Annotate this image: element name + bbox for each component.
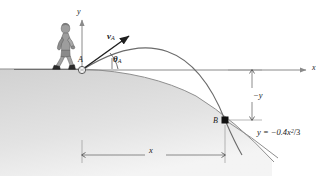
velocity-vector-label: vA [107, 32, 115, 41]
figure-canvas [0, 0, 325, 176]
vertical-drop-label: −y [253, 91, 263, 100]
projectile-motion-figure: y x A B vA θA −y x y = −0.4x2/3 [0, 0, 325, 176]
horizontal-range-label: x [149, 146, 153, 155]
point-a-label: A [78, 56, 83, 64]
theta-subscript: A [118, 58, 122, 64]
point-a-marker [78, 66, 85, 73]
point-b-marker [222, 117, 229, 124]
hill-equation-label: y = −0.4x2/3 [257, 128, 300, 137]
x-axis-label: x [312, 64, 316, 72]
equation-base: y = −0.4x [257, 127, 291, 137]
velocity-subscript: A [111, 35, 115, 41]
hill-region [0, 69, 274, 176]
walking-person [53, 23, 76, 69]
point-b-label: B [213, 117, 218, 125]
equation-denominator: /3 [294, 127, 301, 137]
velocity-vector [83, 36, 129, 69]
y-axis-label: y [77, 8, 81, 16]
launch-angle-label: θA [113, 55, 121, 64]
